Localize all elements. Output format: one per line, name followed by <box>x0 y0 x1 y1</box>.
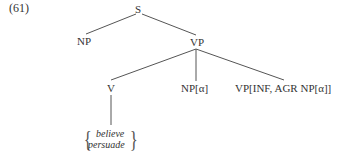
edge-vp-vpinf <box>196 49 284 80</box>
right-brace-icon: } <box>130 127 138 151</box>
node-s: S <box>135 4 141 15</box>
edge-vp-v <box>111 49 196 80</box>
node-np-subject: NP <box>77 36 91 47</box>
tree-edges <box>0 0 343 153</box>
alternative-believe: believe <box>96 129 124 139</box>
edge-s-np <box>86 14 136 34</box>
node-vp-infinitival: VP[INF, AGR NP[α]] <box>235 83 331 94</box>
lexical-alternatives: { believe persuade } <box>82 127 140 153</box>
node-vp: VP <box>190 37 204 48</box>
node-np-object: NP[α] <box>181 83 208 94</box>
alternative-persuade: persuade <box>88 140 125 150</box>
node-v: V <box>107 83 115 94</box>
edge-s-vp <box>142 14 196 35</box>
